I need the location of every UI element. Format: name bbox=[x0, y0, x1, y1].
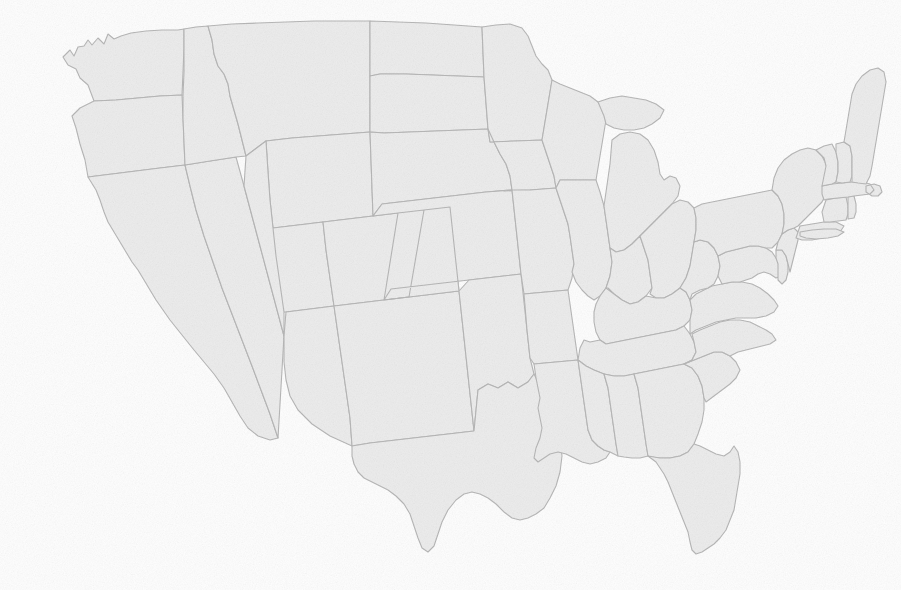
state-oregon[interactable]: Oregon bbox=[72, 95, 185, 177]
state-washington[interactable]: Washington bbox=[63, 29, 184, 101]
state-arkansas[interactable]: Arkansas bbox=[524, 290, 578, 364]
state-connecticut[interactable]: Connecticut bbox=[822, 197, 848, 222]
state-south-dakota[interactable]: South Dakota bbox=[370, 74, 488, 133]
state-florida[interactable]: Florida bbox=[648, 444, 740, 554]
state-rhode-island[interactable]: Rhode Island bbox=[848, 196, 856, 219]
us-states-map[interactable]: Washington Oregon California Nevada Idah… bbox=[0, 0, 901, 590]
state-north-dakota[interactable]: North Dakota bbox=[370, 21, 484, 77]
state-wyoming[interactable]: Wyoming bbox=[266, 132, 373, 228]
state-minnesota[interactable]: Minnesota bbox=[482, 24, 552, 142]
state-new-hampshire[interactable]: New Hampshire bbox=[836, 142, 852, 183]
long-island[interactable] bbox=[800, 229, 844, 239]
state-new-mexico[interactable]: New Mexico bbox=[334, 291, 474, 446]
us-map-canvas: Washington Oregon California Nevada Idah… bbox=[0, 0, 901, 590]
states-layer: Washington Oregon California Nevada Idah… bbox=[63, 21, 886, 554]
